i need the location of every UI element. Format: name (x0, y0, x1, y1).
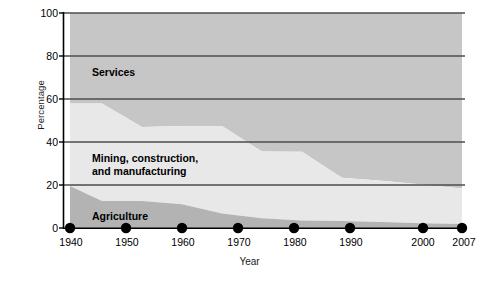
x-tick-label-1970: 1970 (227, 237, 250, 248)
x-tick-label-1980: 1980 (283, 237, 306, 248)
x-axis-title: Year (0, 256, 499, 267)
x-tick-label-1960: 1960 (171, 237, 194, 248)
x-tick-label-2007: 2007 (452, 237, 475, 248)
x-tick-label-1940: 1940 (59, 237, 82, 248)
series-label-mining-line1: Mining, construction, (92, 152, 198, 165)
series-label-mining-line2: and manufacturing (92, 165, 198, 178)
chart-figure: 100 80 60 40 20 0 Percentage 1940 1950 1… (0, 0, 499, 282)
x-tick-label-2000: 2000 (411, 237, 434, 248)
x-axis-tick-labels: 1940 1950 1960 1970 1980 1990 2000 2007 (0, 0, 499, 282)
series-label-services: Services (92, 66, 135, 79)
x-tick-label-1990: 1990 (339, 237, 362, 248)
series-label-mining: Mining, construction, and manufacturing (92, 152, 198, 178)
series-label-agriculture: Agriculture (92, 210, 148, 223)
x-tick-label-1950: 1950 (115, 237, 138, 248)
